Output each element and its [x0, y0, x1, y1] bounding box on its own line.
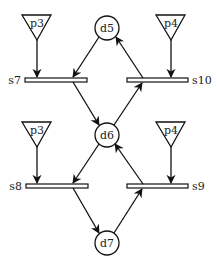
- transition-s8: s8: [9, 180, 88, 193]
- arc-d5-s7: [73, 37, 99, 77]
- place-d5: d5: [95, 16, 119, 40]
- place-d6: d6: [95, 123, 119, 147]
- transition-label: s9: [192, 180, 205, 193]
- input-label: p4: [164, 17, 178, 30]
- transition-s9: s9: [127, 180, 205, 193]
- arc-s8-d7: [73, 188, 99, 233]
- place-d7: d7: [95, 231, 119, 255]
- arc-s7-d6: [73, 82, 99, 125]
- arc-d6-s8: [73, 144, 99, 183]
- arc-d6-s10: [114, 83, 142, 125]
- arc-d7-s9: [114, 189, 142, 233]
- input-p3-top: p3: [22, 15, 51, 40]
- input-p3-bottom: p3: [22, 122, 51, 147]
- arc-s10-d5: [116, 37, 143, 78]
- transition-s10: s10: [127, 74, 212, 87]
- input-p4-bottom: p4: [156, 122, 185, 147]
- input-p4-top: p4: [156, 15, 185, 40]
- place-label: d5: [100, 22, 114, 35]
- input-label: p3: [30, 17, 44, 30]
- transition-label: s7: [8, 74, 21, 87]
- input-label: p4: [164, 124, 178, 137]
- transition-label: s10: [192, 74, 212, 87]
- petri-net-diagram: p3 p4 p3 p4 d5 d6 d7 s7 s10 s8 s9: [0, 0, 217, 269]
- place-label: d6: [100, 129, 114, 142]
- place-label: d7: [100, 237, 114, 250]
- input-label: p3: [30, 124, 44, 137]
- transition-label: s8: [9, 180, 22, 193]
- arc-s9-d6: [115, 144, 143, 184]
